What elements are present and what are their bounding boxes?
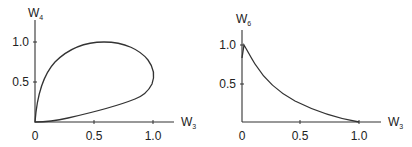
right-plot: 0 0.5 1.0 0.5 1.0 W6 W3 [219, 12, 403, 143]
right-x-tick-label-0: 0 [239, 129, 246, 143]
left-x-axis-label: W3 [181, 115, 196, 130]
left-y-tick-label-0.5: 0.5 [12, 75, 29, 89]
left-curve [35, 42, 154, 122]
right-x-tick-label-1.0: 1.0 [351, 129, 368, 143]
figure: 0 0.5 1.0 0.5 1.0 W4 W3 0 0.5 1.0 0.5 1.… [0, 0, 412, 147]
left-x-tick-label-0.5: 0.5 [86, 129, 103, 143]
right-x-axis-label: W3 [388, 115, 403, 130]
right-x-tick-label-0.5: 0.5 [292, 129, 309, 143]
left-x-tick-label-1.0: 1.0 [145, 129, 162, 143]
left-plot: 0 0.5 1.0 0.5 1.0 W4 W3 [12, 6, 196, 143]
left-y-tick-label-1.0: 1.0 [12, 35, 29, 49]
left-x-tick-label-0: 0 [32, 129, 39, 143]
right-y-tick-label-1.0: 1.0 [219, 38, 236, 52]
right-y-axis-label: W6 [236, 12, 251, 27]
left-y-axis-label: W4 [28, 6, 43, 21]
right-curve [242, 45, 359, 122]
right-y-tick-label-0.5: 0.5 [219, 77, 236, 91]
